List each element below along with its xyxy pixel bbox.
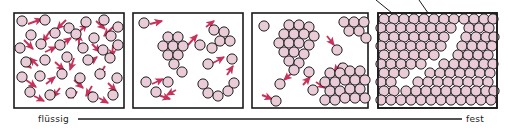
panel-large-clusters [252, 13, 371, 108]
axis-label-solid: fest [466, 114, 484, 124]
particle-state-diagram: flüssig fest [0, 0, 509, 132]
diagram-canvas [0, 0, 509, 132]
axis-label-liquid: flüssig [38, 114, 69, 124]
panel-small-clusters [133, 13, 243, 108]
panel-solid [376, 0, 499, 108]
panel-liquid [14, 13, 124, 108]
